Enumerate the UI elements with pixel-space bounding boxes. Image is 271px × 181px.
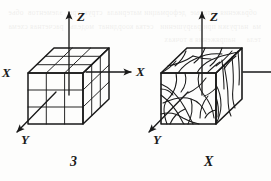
left-axis-x-left-label: X xyxy=(2,66,11,79)
left-panel-caption: 3 xyxy=(70,155,77,169)
figure-linework xyxy=(0,0,271,181)
left-axis-y xyxy=(17,92,56,132)
right-box-front-cracks xyxy=(161,73,216,124)
left-box-right-grid xyxy=(83,56,109,115)
right-axis-z-label: Z xyxy=(210,10,218,23)
left-axis-z-label: Z xyxy=(77,10,85,23)
left-box-front-face xyxy=(28,73,83,124)
left-axis-x-right-label: X xyxy=(136,65,145,78)
left-box-front-grid xyxy=(28,73,83,124)
figure-root: ображения которые деформации материала с… xyxy=(0,0,271,181)
right-box-top-cracks xyxy=(161,48,238,73)
left-axis-y-label: Y xyxy=(21,133,29,146)
right-panel-caption: X xyxy=(204,155,213,169)
right-axis-y-label: Y xyxy=(153,133,161,146)
